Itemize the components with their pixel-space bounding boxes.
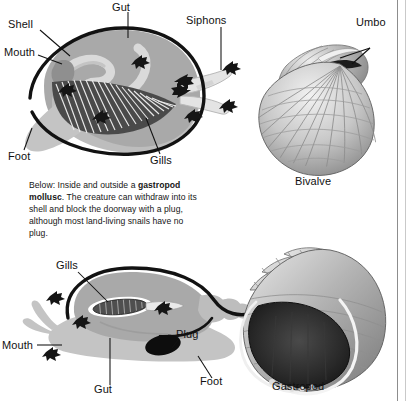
gastropod-shell-photo: [241, 248, 388, 394]
label-foot-bottom: Foot: [200, 375, 222, 387]
bivalve-body-group: [24, 12, 241, 154]
label-mouth: Mouth: [4, 46, 35, 58]
label-shell: Shell: [8, 18, 33, 30]
label-gills: Gills: [150, 154, 172, 166]
caption-lead: Below: Inside and outside a: [29, 180, 138, 190]
label-gut-bottom: Gut: [94, 383, 112, 395]
caption-block: Below: Inside and outside a gastropod mo…: [29, 179, 201, 239]
label-plug: Plug: [176, 328, 198, 340]
label-umbo: Umbo: [356, 16, 386, 28]
page-root: Shell Mouth Gut Siphons Gills Foot Umbo …: [0, 0, 407, 401]
gastropod-cross-section-figure: [23, 268, 260, 385]
label-mouth-bottom: Mouth: [2, 339, 33, 351]
caption-bivalve: Bivalve: [295, 175, 331, 187]
label-foot: Foot: [8, 150, 30, 162]
label-siphons: Siphons: [186, 14, 226, 26]
label-gills-bottom: Gills: [56, 259, 78, 271]
bivalve-shell-photo: [258, 45, 376, 176]
label-gut: Gut: [112, 1, 130, 13]
caption-gastropod: Gastropod: [272, 380, 324, 392]
